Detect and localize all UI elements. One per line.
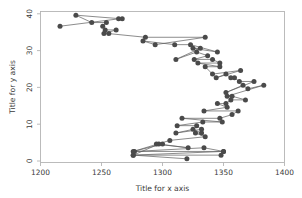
data-point-marker	[237, 79, 242, 84]
data-point-marker	[223, 90, 228, 95]
data-point-marker	[114, 27, 119, 32]
data-point-marker	[143, 35, 148, 40]
data-point-marker	[200, 119, 205, 124]
data-point-marker	[215, 101, 220, 106]
data-point-marker	[238, 68, 243, 73]
data-point-marker	[223, 101, 228, 106]
data-point-marker	[160, 142, 165, 147]
x-axis-title: Title for x axis	[135, 184, 190, 193]
data-point-marker	[116, 16, 121, 21]
data-point-marker	[184, 156, 189, 161]
data-point-marker	[236, 108, 241, 113]
data-point-marker	[201, 108, 206, 113]
data-point-marker	[215, 50, 220, 55]
data-point-marker	[186, 145, 191, 150]
data-point-marker	[131, 149, 136, 154]
data-point-marker	[180, 116, 185, 121]
x-tick-label: 1250	[92, 168, 111, 177]
y-axis-title: Title for y axis	[8, 60, 17, 115]
data-point-marker	[188, 42, 193, 47]
data-point-marker	[221, 149, 226, 154]
data-point-marker	[194, 123, 199, 128]
x-tick-label: 1200	[31, 168, 50, 177]
data-point-marker	[210, 57, 215, 62]
data-point-marker	[198, 46, 203, 51]
scatter-line-chart: 1200 1250 1300 1350 1400 0 10 20 30 40 T…	[0, 0, 302, 198]
data-point-marker	[205, 53, 210, 58]
data-point-marker	[199, 127, 204, 132]
data-point-marker	[100, 24, 105, 29]
data-point-marker	[89, 20, 94, 25]
data-point-marker	[228, 75, 233, 80]
data-point-marker	[173, 57, 178, 62]
data-point-marker	[252, 79, 257, 84]
data-point-marker	[73, 13, 78, 18]
data-point-marker	[241, 83, 246, 88]
data-point-marker	[154, 142, 159, 147]
data-point-marker	[104, 20, 109, 25]
data-point-marker	[106, 31, 111, 36]
y-tick-label: 10	[25, 119, 34, 129]
data-point-marker	[173, 131, 178, 136]
data-point-marker	[191, 127, 196, 132]
y-tick-label: 30	[25, 46, 34, 56]
chart-figure: 1200 1250 1300 1350 1400 0 10 20 30 40 T…	[0, 0, 302, 198]
data-point-marker	[243, 97, 248, 102]
data-point-marker	[217, 61, 222, 66]
data-point-marker	[210, 72, 215, 77]
data-point-marker	[175, 123, 180, 128]
data-point-marker	[245, 86, 250, 91]
data-point-marker	[203, 35, 208, 40]
data-point-marker	[172, 42, 177, 47]
data-point-marker	[203, 64, 208, 69]
y-tick-label: 0	[25, 158, 34, 163]
data-point-marker	[203, 134, 208, 139]
data-point-marker	[261, 83, 266, 88]
data-point-marker	[167, 138, 172, 143]
data-point-marker	[230, 94, 235, 99]
data-point-marker	[153, 42, 158, 47]
data-point-marker	[223, 72, 228, 77]
data-point-marker	[214, 75, 219, 80]
x-tick-label: 1300	[153, 168, 172, 177]
data-point-marker	[217, 116, 222, 121]
data-point-marker	[195, 61, 200, 66]
data-point-marker	[192, 57, 197, 62]
x-tick-label: 1400	[275, 168, 294, 177]
y-tick-label: 40	[25, 9, 34, 19]
data-point-marker	[230, 112, 235, 117]
data-point-marker	[201, 145, 206, 150]
y-tick-label: 20	[25, 82, 34, 92]
data-point-marker	[194, 50, 199, 55]
data-point-marker	[58, 24, 63, 29]
x-tick-label: 1350	[214, 168, 233, 177]
